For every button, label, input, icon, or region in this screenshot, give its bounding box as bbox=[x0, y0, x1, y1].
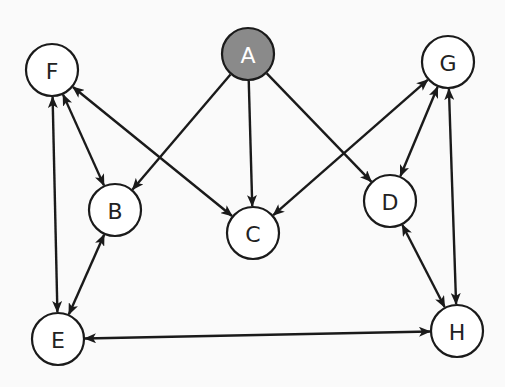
node-e: E bbox=[32, 313, 84, 365]
edge-f-e bbox=[53, 97, 58, 312]
node-a: A bbox=[222, 28, 274, 80]
node-label: H bbox=[449, 320, 466, 345]
node-b: B bbox=[89, 184, 141, 236]
edge-a-b bbox=[133, 75, 231, 190]
edge-a-c bbox=[249, 81, 252, 206]
node-label: B bbox=[107, 199, 122, 224]
node-label: E bbox=[51, 328, 65, 353]
node-c: C bbox=[227, 207, 279, 259]
graph-diagram: AFGBCDEH bbox=[0, 0, 505, 387]
edge-g-h bbox=[449, 89, 456, 304]
node-label: D bbox=[382, 190, 399, 215]
node-d: D bbox=[364, 175, 416, 227]
node-h: H bbox=[431, 305, 483, 357]
edge-d-h bbox=[402, 225, 444, 307]
node-label: C bbox=[245, 222, 260, 247]
node-label: F bbox=[46, 59, 59, 84]
node-g: G bbox=[422, 36, 474, 88]
node-layer: AFGBCDEH bbox=[26, 28, 483, 365]
edge-b-e bbox=[69, 235, 104, 315]
edge-e-h bbox=[85, 332, 430, 339]
node-label: A bbox=[240, 43, 255, 68]
edge-a-d bbox=[267, 73, 371, 181]
node-f: F bbox=[26, 44, 78, 96]
node-label: G bbox=[439, 51, 456, 76]
